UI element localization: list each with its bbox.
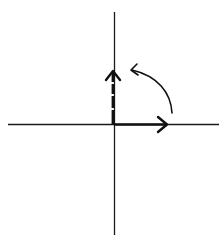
vertical-vector	[106, 71, 120, 124]
horizontal-vector	[114, 117, 167, 132]
rotation-diagram	[0, 0, 223, 244]
rotation-arrow	[131, 64, 172, 113]
rotation-arrow-head-icon	[131, 64, 138, 75]
rotation-arc	[132, 70, 172, 113]
